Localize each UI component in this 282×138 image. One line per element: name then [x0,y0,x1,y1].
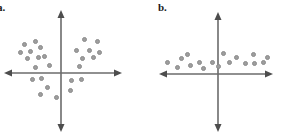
panel-a-x-axis-right-arrow [114,70,122,77]
data-point [30,77,35,82]
data-point [179,56,184,61]
panel-a-x-axis-left-arrow [4,70,12,77]
data-point [91,55,96,60]
data-point [216,64,221,69]
data-point [234,55,239,60]
scatterplot-figure: a. b. [0,0,282,138]
data-point [227,60,232,65]
data-point [165,60,170,65]
panel-a: a. [0,0,141,138]
data-point [79,77,84,82]
data-point [175,65,180,70]
panel-a-axis-svg [0,0,141,138]
panel-b-axis-svg [141,0,282,138]
panel-b-x-axis-left-arrow [159,71,167,78]
data-point [185,52,190,57]
data-point [38,92,43,97]
data-point [39,76,44,81]
data-point [221,51,226,56]
data-point [42,54,47,59]
data-point [45,85,50,90]
data-point [95,39,100,44]
data-point [28,49,33,54]
data-point [201,66,206,71]
data-point [47,63,52,68]
data-point [69,78,74,83]
data-point [77,64,82,69]
data-point [197,60,202,65]
data-point [38,45,43,50]
panel-a-y-axis-bottom-arrow [58,124,65,132]
data-point [33,39,38,44]
data-point [54,95,59,100]
panel-b-axes [141,0,282,138]
data-point [74,48,79,53]
data-point [87,48,92,53]
panel-a-y-axis-top-arrow [58,10,65,18]
data-point [80,56,85,61]
data-point [25,56,30,61]
panel-b-y-axis-bottom-arrow [215,124,222,132]
data-point [243,61,248,66]
data-point [252,61,257,66]
data-point [188,63,193,68]
panel-b-y-axis-top-arrow [215,12,222,20]
data-point [68,88,73,93]
data-point [261,60,266,65]
panel-b: b. [141,0,282,138]
data-point [265,55,270,60]
data-point [36,55,41,60]
data-point [251,52,256,57]
data-point [33,65,38,70]
data-point [210,60,215,65]
data-point [97,50,102,55]
panel-b-x-axis-right-arrow [265,71,273,78]
data-point [18,50,23,55]
panel-a-axes [0,0,141,138]
data-point [22,42,27,47]
data-point [82,37,87,42]
